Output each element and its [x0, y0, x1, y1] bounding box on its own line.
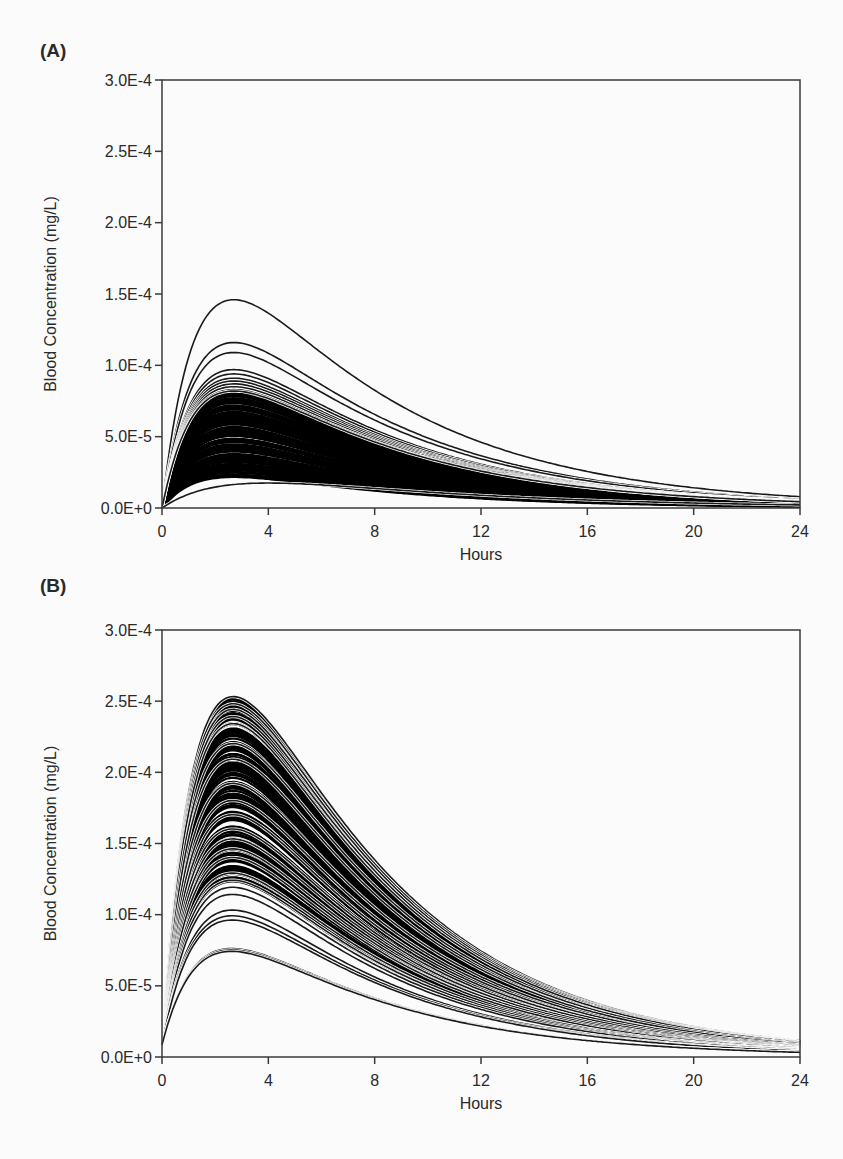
y-tick-label: 1.5E-4	[105, 835, 152, 852]
y-tick-label: 1.0E-4	[105, 906, 152, 923]
y-axis-title: Blood Concentration (mg/L)	[42, 746, 59, 942]
x-tick-label: 20	[685, 1072, 703, 1089]
x-tick-label: 16	[578, 1072, 596, 1089]
x-tick-label: 24	[791, 1072, 809, 1089]
y-tick-label: 0.0E+0	[101, 1049, 152, 1066]
y-tick-label: 5.0E-5	[105, 977, 152, 994]
x-axis-title: Hours	[460, 1095, 503, 1112]
x-tick-label: 4	[264, 1072, 273, 1089]
panel-b: (B) 0.0E+05.0E-51.0E-41.5E-42.0E-42.5E-4…	[0, 0, 843, 1159]
y-tick-label: 2.5E-4	[105, 693, 152, 710]
y-tick-label: 3.0E-4	[105, 622, 152, 639]
chart-b: 0.0E+05.0E-51.0E-41.5E-42.0E-42.5E-43.0E…	[0, 0, 843, 1159]
plot-area	[162, 697, 800, 1053]
y-tick-label: 2.0E-4	[105, 764, 152, 781]
x-tick-label: 8	[370, 1072, 379, 1089]
x-tick-label: 0	[158, 1072, 167, 1089]
x-tick-label: 12	[472, 1072, 490, 1089]
